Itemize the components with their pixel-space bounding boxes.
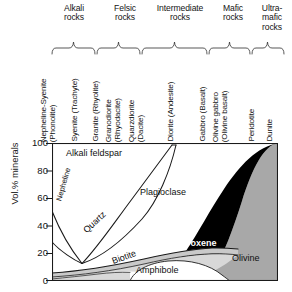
rock-label-line1: Diorite (Andesite) <box>166 82 175 142</box>
brace-mafic <box>209 42 250 54</box>
category-line2: rocks <box>223 12 243 22</box>
category-label-alkali: Alkali rocks <box>44 4 104 23</box>
rock-label-line1: Syenite (Trachyte) <box>70 79 79 142</box>
rock-label-diorite: Diorite (Andesite) <box>167 82 176 142</box>
rock-label-line2: (Rhyodacite) <box>113 98 122 142</box>
rock-label-line1: Olivine gabbro <box>211 92 220 142</box>
category-line2: rocks <box>115 12 135 22</box>
rock-label-olivine-gabbro: Olivine gabbro (Olivine basalt) <box>212 90 229 142</box>
brace-alkali <box>52 42 95 54</box>
rock-label-line1: Granodiorite <box>104 99 113 142</box>
rock-label-granite: Granite (Rhyolite) <box>92 81 101 142</box>
rock-label-gabbro: Gabbro (Basalt) <box>199 87 208 142</box>
category-line2: rocks <box>170 12 190 22</box>
rock-label-line2: (Phonolite) <box>48 78 57 142</box>
category-line3: rocks <box>262 22 282 32</box>
rock-label-line1: Granite (Rhyolite) <box>91 81 100 142</box>
category-label-felsic: Felsic rocks <box>104 4 146 23</box>
y-axis-title: Vol.% minerals <box>9 134 20 214</box>
rock-label-syenite: Syenite (Trachyte) <box>71 79 80 142</box>
brace-intermediate <box>142 42 207 54</box>
category-label-mafic: Mafic rocks <box>214 4 252 23</box>
rock-label-granodiorite: Granodiorite (Rhyodacite) <box>105 98 122 142</box>
category-label-intermediate: Intermediate rocks <box>144 4 216 23</box>
mineral-composition-plot: Alkali feldspar Nepheline Quartz Plagioc… <box>52 143 278 281</box>
plot-svg <box>52 143 278 281</box>
category-line2: rocks <box>64 12 84 22</box>
brace-felsic <box>97 42 140 54</box>
category-label-ultramafic: Ultra- mafic rocks <box>252 4 292 32</box>
rock-label-line2: (Olivine basalt) <box>220 90 229 142</box>
rock-label-line1: Quarzdiorite <box>127 100 136 142</box>
diagram-root: Alkali rocks Felsic rocks Intermediate r… <box>0 0 292 292</box>
rock-label-line1: Dunite <box>265 120 274 143</box>
rock-label-line2: (Dacite) <box>136 100 145 142</box>
rock-label-dunite: Dunite <box>266 120 275 143</box>
rock-label-line1: Gabbro (Basalt) <box>198 87 207 142</box>
rock-label-quarzdiorite: Quarzdiorite (Dacite) <box>128 100 145 142</box>
brace-ultramafic <box>252 42 284 54</box>
rock-label-peridotite: Peridotite <box>248 109 257 142</box>
rock-label-line1: Peridotite <box>247 109 256 142</box>
